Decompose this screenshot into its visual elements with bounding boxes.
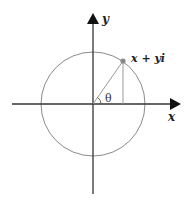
y-axis-arrow-icon xyxy=(87,13,99,24)
x-axis-arrow-icon xyxy=(170,98,181,110)
point-label: x + yi xyxy=(130,52,165,65)
complex-plane-diagram: y x x + yi θ xyxy=(0,0,193,202)
x-axis-label: x xyxy=(167,110,176,124)
angle-label: θ xyxy=(105,92,112,105)
y-axis-label: y xyxy=(101,12,110,26)
complex-point-marker xyxy=(120,58,125,63)
angle-arc xyxy=(98,97,101,104)
